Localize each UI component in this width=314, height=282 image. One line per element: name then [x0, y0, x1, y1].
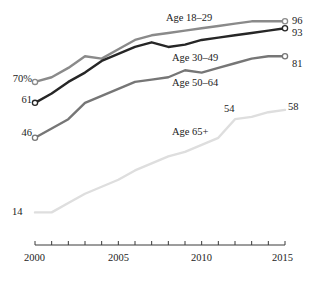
value-label-96: 96: [292, 16, 314, 27]
series-label-3: Age 50–64: [172, 78, 218, 89]
series-label-4: Age 65+: [172, 127, 209, 138]
line-chart: Age 18–29Age 30–49Age 50–64Age 65+ 70%61…: [0, 0, 314, 282]
value-label-61: 61: [4, 95, 32, 106]
endpoint-marker-1-end: [282, 19, 287, 24]
value-label-81: 81: [292, 59, 314, 70]
chart-plot-area: [0, 0, 314, 282]
value-label-70pct: 70%: [4, 74, 32, 85]
series-line-1: [35, 21, 285, 82]
value-label-93: 93: [292, 28, 314, 39]
x-tick-label-2015: 2015: [272, 253, 293, 264]
endpoint-marker-3-start: [32, 135, 37, 140]
endpoint-marker-2-end: [282, 26, 287, 31]
value-label-14: 14: [12, 207, 34, 218]
x-tick-label-2010: 2010: [191, 253, 212, 264]
series-label-2: Age 30–49: [172, 53, 218, 64]
endpoint-marker-2-start: [32, 100, 37, 105]
series-line-3: [35, 56, 285, 138]
value-label-58: 58: [288, 102, 310, 113]
series-group: [32, 19, 287, 213]
x-axis: [35, 241, 285, 245]
series-label-1: Age 18–29: [166, 13, 212, 24]
x-tick-label-2000: 2000: [24, 253, 45, 264]
value-label-54: 54: [224, 104, 246, 115]
endpoint-marker-1-start: [32, 79, 37, 84]
endpoint-marker-3-end: [282, 54, 287, 59]
value-label-46: 46: [4, 128, 32, 139]
series-line-4: [35, 110, 285, 213]
x-tick-label-2005: 2005: [108, 253, 129, 264]
